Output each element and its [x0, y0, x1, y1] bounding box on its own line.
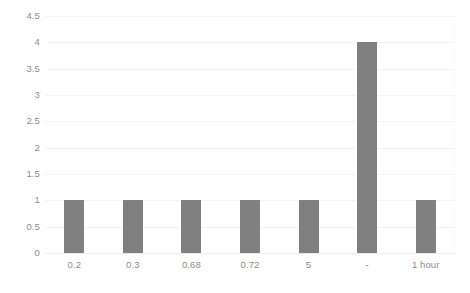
x-axis-tick-label: 1 hour — [396, 259, 455, 271]
y-axis-tick-label: 2.5 — [0, 116, 40, 126]
gridline — [45, 253, 455, 254]
x-axis-tick-label: 0.2 — [45, 259, 104, 271]
y-axis-tick-label: 3 — [0, 90, 40, 100]
y-axis-tick-label: 1.5 — [0, 169, 40, 179]
x-axis-tick-label: 5 — [279, 259, 338, 271]
bar — [64, 200, 84, 253]
y-axis-tick-label: 3.5 — [0, 64, 40, 74]
x-axis-tick-label: 0.72 — [221, 259, 280, 271]
x-axis-tick-label: - — [338, 259, 397, 271]
y-axis: 00.511.522.533.544.5 — [0, 0, 40, 293]
x-axis-tick-label: 0.3 — [104, 259, 163, 271]
bar — [416, 200, 436, 253]
y-axis-tick-label: 0 — [0, 248, 40, 258]
y-axis-tick-label: 4 — [0, 37, 40, 47]
bar — [181, 200, 201, 253]
bar — [299, 200, 319, 253]
bar — [240, 200, 260, 253]
x-axis-tick-label: 0.68 — [162, 259, 221, 271]
y-axis-tick-label: 2 — [0, 143, 40, 153]
bar — [123, 200, 143, 253]
y-axis-tick-label: 1 — [0, 195, 40, 205]
bar-series — [45, 16, 455, 253]
bar — [357, 42, 377, 253]
y-axis-tick-label: 0.5 — [0, 222, 40, 232]
y-axis-tick-label: 4.5 — [0, 11, 40, 21]
bar-chart: 00.511.522.533.544.5 0.20.30.680.725-1 h… — [0, 0, 470, 293]
x-axis: 0.20.30.680.725-1 hour — [45, 259, 455, 275]
